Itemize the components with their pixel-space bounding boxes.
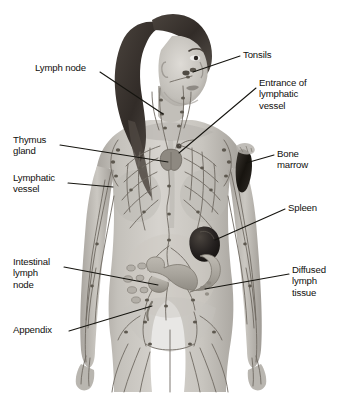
node-chest-l1 bbox=[138, 167, 142, 170]
node-arm-r2 bbox=[248, 285, 252, 288]
label-appendix: Appendix bbox=[13, 324, 52, 335]
node-axillary-r3 bbox=[224, 175, 228, 178]
label-lymphatic-vessel: Lymphatic vessel bbox=[13, 172, 55, 195]
lymphatic-system-figure: Lymph node Thymus gland Lymphatic vessel… bbox=[0, 0, 347, 402]
node-pelvic-2 bbox=[193, 320, 197, 323]
anatomy-illustration bbox=[0, 0, 347, 402]
node-mesenteric-3 bbox=[145, 298, 149, 301]
label-diffused-lymph-tissue: Diffused lymph tissue bbox=[292, 264, 326, 298]
node-cervical-4 bbox=[181, 97, 185, 100]
node-cervical-1 bbox=[159, 99, 163, 102]
node-chest-l2 bbox=[129, 189, 133, 192]
label-tonsils: Tonsils bbox=[243, 49, 271, 60]
node-arm-l2 bbox=[90, 285, 94, 288]
node-thoracic-1 bbox=[167, 185, 171, 188]
hand-left bbox=[76, 364, 95, 390]
node-thoracic-2 bbox=[167, 213, 171, 216]
hand-right bbox=[248, 364, 267, 390]
node-axillary-l3 bbox=[114, 175, 118, 178]
node-mesenteric-4 bbox=[191, 298, 195, 301]
node-cervical-3 bbox=[163, 127, 167, 130]
label-lymph-node: Lymph node bbox=[35, 62, 86, 73]
node-mesenteric-5 bbox=[164, 304, 168, 307]
node-axillary-l1 bbox=[116, 148, 120, 151]
node-pelvic-4 bbox=[188, 342, 192, 345]
node-chest-r3 bbox=[196, 211, 200, 214]
node-pelvic-3 bbox=[148, 342, 152, 345]
node-thoracic-3 bbox=[167, 238, 171, 241]
node-arm-r1 bbox=[243, 243, 247, 246]
node-pelvic-1 bbox=[143, 320, 147, 323]
node-chest-r2 bbox=[209, 189, 213, 192]
node-cervical-6 bbox=[177, 125, 181, 128]
node-axillary-r1 bbox=[222, 148, 226, 151]
node-axillary-l2 bbox=[111, 160, 115, 163]
iris bbox=[194, 56, 198, 60]
node-arm-l1 bbox=[95, 243, 99, 246]
node-submandibular bbox=[186, 76, 190, 79]
node-chest-l3 bbox=[142, 211, 146, 214]
node-inguinal-l bbox=[124, 330, 128, 333]
node-chest-r1 bbox=[200, 167, 204, 170]
bone-marrow-organ bbox=[236, 143, 255, 192]
chest-shadow-left bbox=[113, 170, 161, 222]
label-spleen: Spleen bbox=[288, 202, 317, 213]
body-figure bbox=[76, 14, 267, 392]
label-entrance-of-lymphatic-vessel: Entrance of lymphatic vessel bbox=[259, 77, 306, 111]
node-cervical-5 bbox=[180, 110, 184, 113]
label-bone-marrow: Bone marrow bbox=[277, 148, 308, 171]
node-inguinal-r bbox=[212, 330, 216, 333]
node-axillary-r2 bbox=[227, 160, 231, 163]
label-thymus-gland: Thymus gland bbox=[13, 134, 46, 157]
thymus-organ bbox=[160, 149, 182, 170]
chest-shadow-right bbox=[180, 170, 228, 222]
label-intestinal-lymph-node: Intestinal lymph node bbox=[13, 256, 50, 290]
